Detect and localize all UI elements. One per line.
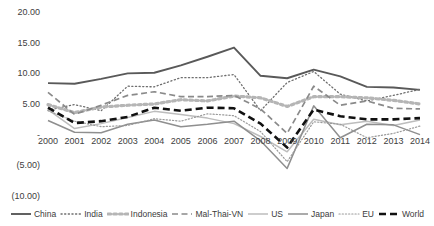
legend-item-eu[interactable]: EU — [338, 210, 374, 219]
legend-label: Mal-Thai-VN — [195, 210, 243, 219]
legend-item-world[interactable]: World — [378, 210, 424, 219]
legend-swatch-icon — [60, 210, 82, 218]
x-axis-tick-label: 2002 — [91, 137, 111, 146]
x-axis-tick-label: 2007 — [224, 137, 244, 146]
legend-label: India — [84, 210, 102, 219]
legend-item-mal-thai-vn[interactable]: Mal-Thai-VN — [171, 210, 243, 219]
legend-swatch-icon — [287, 210, 309, 218]
x-axis-tick-label: 2008 — [251, 137, 271, 146]
chart-legend: ChinaIndiaIndonesiaMal-Thai-VNUSJapanEUW… — [0, 206, 434, 222]
legend-item-china[interactable]: China — [10, 210, 56, 219]
legend-label: Indonesia — [131, 210, 168, 219]
legend-item-india[interactable]: India — [60, 210, 102, 219]
x-axis-tick-label: 2010 — [304, 137, 324, 146]
legend-label: EU — [362, 210, 374, 219]
x-axis-tick-label: 2001 — [65, 137, 85, 146]
legend-item-japan[interactable]: Japan — [287, 210, 334, 219]
legend-label: Japan — [311, 210, 334, 219]
x-axis-tick-label: 2006 — [197, 137, 217, 146]
legend-label: US — [271, 210, 283, 219]
legend-swatch-icon — [10, 210, 32, 218]
legend-swatch-icon — [247, 210, 269, 218]
legend-swatch-icon — [338, 210, 360, 218]
legend-swatch-icon — [378, 210, 400, 218]
legend-item-us[interactable]: US — [247, 210, 283, 219]
x-axis-tick-label: 2005 — [171, 137, 191, 146]
x-axis-tick-label: 2011 — [331, 137, 350, 146]
x-axis-tick-label: 2013 — [383, 137, 403, 146]
x-axis-tick-label: 2004 — [144, 137, 164, 146]
legend-swatch-icon — [171, 210, 193, 218]
plot-area — [0, 0, 434, 226]
legend-label: China — [34, 210, 56, 219]
x-axis-tick-label: 2009 — [277, 137, 297, 146]
x-axis-tick-label: 2014 — [410, 137, 430, 146]
series-line-indonesia — [48, 96, 420, 113]
legend-label: World — [402, 210, 424, 219]
x-axis-tick-label: 2003 — [118, 137, 138, 146]
legend-item-indonesia[interactable]: Indonesia — [107, 210, 168, 219]
line-chart: 20.0015.0010.005.00-(5.00)(10.00) ChinaI… — [0, 0, 434, 226]
x-axis-tick-label: 2000 — [38, 137, 58, 146]
x-axis-tick-label: 2012 — [357, 137, 377, 146]
series-line-china — [48, 48, 420, 90]
legend-swatch-icon — [107, 210, 129, 218]
